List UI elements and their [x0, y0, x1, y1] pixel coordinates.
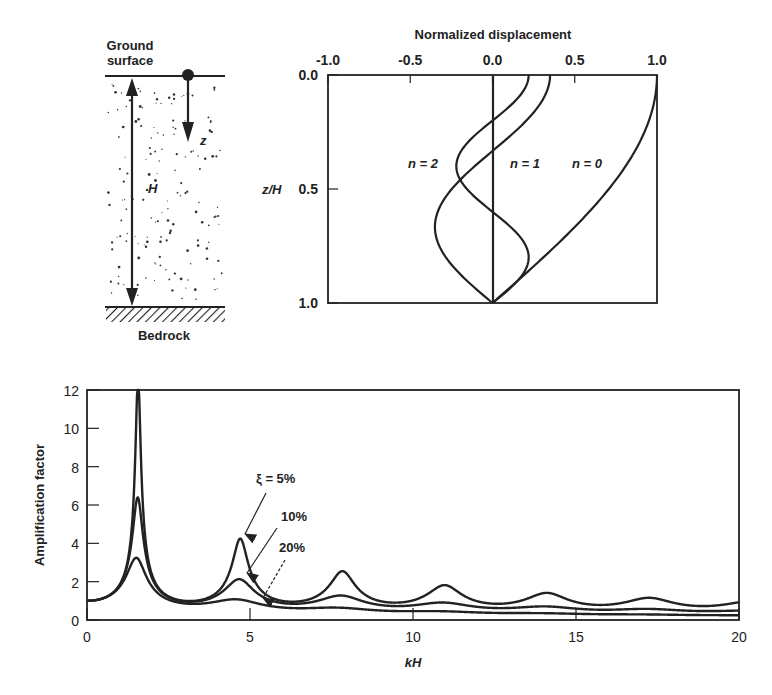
- soil-dot: [126, 106, 127, 107]
- soil-dot: [218, 224, 219, 225]
- soil-dot: [167, 200, 168, 201]
- soil-dot: [185, 288, 186, 289]
- soil-dot: [123, 284, 124, 285]
- annotation-20pct-arrow-icon: [263, 560, 285, 598]
- soil-dot: [190, 263, 191, 264]
- soil-dot: [181, 298, 183, 300]
- soil-dot: [149, 147, 151, 149]
- soil-dot: [167, 219, 170, 222]
- soil-dot: [159, 240, 162, 243]
- soil-dot: [177, 192, 179, 194]
- soil-dot: [173, 93, 176, 96]
- amp-curve-10pct: [87, 497, 739, 611]
- soil-dot: [215, 155, 217, 157]
- soil-dot: [148, 173, 151, 176]
- amp-plot-frame: [87, 390, 739, 620]
- mode-shape-chart: Normalized displacement -1.0-0.50.00.51.…: [261, 27, 667, 311]
- soil-dot: [217, 288, 218, 289]
- soil-dot: [172, 126, 174, 128]
- soil-dot: [138, 88, 140, 90]
- soil-dot: [191, 94, 193, 96]
- soil-dot: [117, 283, 119, 285]
- annotation-10pct: 10%: [281, 509, 307, 524]
- amp-y-tick-label: 0: [71, 613, 79, 629]
- soil-dot: [173, 134, 174, 135]
- soil-dot: [159, 256, 161, 258]
- soil-dot: [118, 266, 121, 269]
- annotation-5pct-arrow-icon: [245, 493, 266, 534]
- soil-dot: [171, 289, 173, 291]
- soil-dot: [115, 92, 117, 94]
- soil-dot: [121, 92, 122, 93]
- soil-dot: [174, 272, 176, 274]
- amp-x-tick-label: 10: [405, 629, 421, 645]
- soil-dot: [198, 202, 200, 204]
- soil-dot: [172, 223, 174, 225]
- soil-dot: [204, 158, 207, 161]
- soil-dot: [156, 98, 158, 100]
- mode-x-ticks: -1.0-0.50.00.51.0: [316, 52, 667, 83]
- depth-arrow-icon: [182, 122, 194, 142]
- height-label: H: [148, 181, 158, 196]
- soil-dot: [180, 195, 181, 196]
- soil-dot: [138, 243, 139, 244]
- soil-dot: [142, 199, 144, 201]
- bedrock-label: Bedrock: [138, 328, 191, 343]
- soil-dot: [125, 208, 127, 210]
- soil-dot: [211, 131, 213, 133]
- mode-y-tick-label: 0.0: [299, 67, 319, 83]
- mode-curves: [435, 75, 657, 303]
- soil-dot: [123, 180, 125, 182]
- soil-dot: [111, 248, 113, 250]
- soil-dot: [139, 90, 141, 92]
- amp-x-tick-label: 0: [83, 629, 91, 645]
- soil-dot: [155, 102, 156, 103]
- soil-dot: [139, 105, 142, 108]
- soil-dot: [213, 216, 215, 218]
- soil-dot: [155, 221, 156, 222]
- amp-curves: [87, 390, 739, 615]
- soil-dot: [169, 232, 171, 234]
- soil-dot: [157, 220, 159, 222]
- mode-x-tick-label: 0.0: [483, 52, 503, 68]
- amp-y-tick-label: 2: [71, 575, 79, 591]
- soil-dot: [168, 96, 171, 99]
- annotation-10pct-arrow-icon: [247, 528, 277, 573]
- soil-dot: [157, 173, 158, 174]
- soil-dot: [127, 233, 128, 234]
- mode-y-ticks: 0.00.51.0: [299, 67, 338, 311]
- soil-dot: [184, 120, 185, 121]
- soil-dot: [161, 149, 163, 151]
- amp-x-tick-label: 15: [568, 629, 584, 645]
- soil-dot: [160, 103, 161, 104]
- soil-dot: [135, 120, 138, 123]
- soil-dot: [113, 85, 115, 87]
- soil-dot: [197, 244, 200, 247]
- soil-dot: [137, 294, 138, 295]
- amp-y-tick-label: 12: [63, 383, 79, 399]
- soil-dot: [210, 121, 212, 123]
- soil-dot: [154, 262, 155, 263]
- soil-dot: [111, 241, 113, 243]
- soil-dot: [160, 236, 162, 238]
- soil-dot: [120, 220, 122, 222]
- soil-dot: [159, 160, 160, 161]
- soil-dot: [199, 168, 201, 170]
- height-arrow-down-icon: [126, 288, 138, 306]
- soil-dot: [157, 132, 158, 133]
- soil-dot: [208, 224, 210, 226]
- soil-dot: [108, 112, 110, 114]
- soil-dot: [169, 230, 172, 233]
- soil-dot: [181, 96, 182, 97]
- label-n2: n = 2: [408, 156, 439, 171]
- soil-dot: [125, 240, 127, 242]
- soil-dot: [176, 153, 178, 155]
- soil-dot: [213, 89, 215, 91]
- soil-dot: [153, 127, 154, 128]
- mode-x-tick-label: 1.0: [647, 52, 667, 68]
- soil-dot: [145, 245, 147, 247]
- amp-y-tick-label: 10: [63, 421, 79, 437]
- soil-dot: [117, 109, 119, 111]
- soil-dot: [165, 269, 167, 271]
- soil-dot: [211, 155, 214, 158]
